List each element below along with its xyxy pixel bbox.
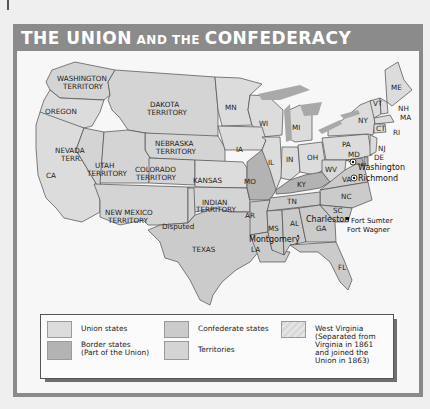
title-and-the: AND THE bbox=[132, 33, 205, 47]
svg-text:TERRITORY: TERRITORY bbox=[195, 205, 237, 214]
svg-text:LA: LA bbox=[251, 245, 260, 254]
legend-item-border: Border states (Part of the Union) bbox=[47, 341, 149, 360]
page-edge-mark bbox=[7, 0, 9, 10]
svg-text:IN: IN bbox=[286, 155, 294, 164]
svg-text:RI: RI bbox=[393, 128, 400, 137]
region-new-york bbox=[328, 100, 375, 136]
label-oregon: OREGON bbox=[45, 107, 77, 116]
legend-item-west-virginia: West Virginia (Separated from Virginia i… bbox=[281, 321, 376, 365]
label-charleston: Charleston bbox=[306, 215, 349, 224]
svg-text:WV: WV bbox=[325, 165, 337, 174]
montgomery-dot-icon bbox=[297, 235, 299, 237]
svg-text:TERRITORY: TERRITORY bbox=[62, 82, 104, 91]
svg-text:IL: IL bbox=[268, 158, 274, 167]
svg-text:TERRITORY: TERRITORY bbox=[155, 147, 197, 156]
legend-item-union: Union states bbox=[47, 321, 127, 338]
svg-text:MD: MD bbox=[348, 150, 360, 159]
legend-item-confederate: Confederate states bbox=[164, 321, 269, 338]
svg-text:SC: SC bbox=[333, 206, 343, 215]
svg-text:TERRITORY: TERRITORY bbox=[86, 169, 128, 178]
svg-text:MA: MA bbox=[400, 113, 411, 122]
west-virginia-swatch bbox=[281, 321, 306, 338]
svg-text:MN: MN bbox=[225, 103, 237, 112]
svg-text:CT: CT bbox=[376, 124, 386, 133]
title-bar: THE UNION AND THE CONFEDERACY bbox=[13, 24, 423, 51]
label-richmond: Richmond bbox=[358, 174, 398, 183]
svg-text:VA: VA bbox=[342, 175, 351, 184]
svg-text:AL: AL bbox=[290, 219, 299, 228]
svg-text:MO: MO bbox=[244, 177, 256, 186]
territories-swatch bbox=[164, 341, 189, 360]
svg-text:TN: TN bbox=[286, 197, 297, 206]
label-texas: TEXAS bbox=[191, 245, 216, 254]
svg-text:WI: WI bbox=[259, 119, 268, 128]
svg-text:TERR.: TERR. bbox=[60, 154, 82, 163]
legend-item-territories: Territories bbox=[164, 341, 235, 360]
svg-text:AR: AR bbox=[245, 211, 255, 220]
svg-text:VT: VT bbox=[373, 99, 383, 108]
svg-text:DE: DE bbox=[374, 153, 385, 162]
svg-text:NJ: NJ bbox=[378, 144, 386, 153]
title-union: THE UNION bbox=[21, 28, 132, 48]
title-confederacy: CONFEDERACY bbox=[205, 28, 352, 48]
svg-text:GA: GA bbox=[316, 224, 327, 233]
svg-text:NY: NY bbox=[358, 116, 368, 125]
map-legend: Union states Border states (Part of the … bbox=[40, 314, 394, 379]
svg-text:KY: KY bbox=[297, 180, 306, 189]
confederate-swatch bbox=[164, 321, 189, 338]
union-swatch bbox=[47, 321, 72, 338]
svg-text:TERRITORY: TERRITORY bbox=[107, 216, 149, 225]
svg-text:PA: PA bbox=[342, 140, 351, 149]
svg-text:NH: NH bbox=[398, 104, 409, 113]
label-disputed: Disputed bbox=[162, 222, 194, 231]
label-washington: Washington bbox=[358, 163, 405, 172]
label-montgomery: Montgomery bbox=[249, 235, 300, 244]
svg-text:MI: MI bbox=[292, 123, 300, 132]
svg-text:FL: FL bbox=[338, 263, 346, 272]
border-swatch bbox=[47, 341, 72, 360]
svg-text:MS: MS bbox=[268, 224, 279, 233]
label-fort-sumter: Fort Sumter bbox=[351, 217, 393, 225]
svg-text:IA: IA bbox=[236, 145, 243, 154]
svg-text:OH: OH bbox=[307, 153, 318, 162]
label-ca: CA bbox=[46, 171, 56, 180]
svg-text:ME: ME bbox=[391, 83, 402, 92]
us-civil-war-map: WASHINGTON TERRITORY OREGON DAKOTA TERRI… bbox=[17, 51, 419, 307]
map-title: THE UNION AND THE CONFEDERACY bbox=[21, 28, 351, 48]
svg-text:TERRITORY: TERRITORY bbox=[146, 108, 188, 117]
svg-text:TERRITORY: TERRITORY bbox=[135, 173, 177, 182]
label-kansas: KANSAS bbox=[193, 176, 222, 185]
label-fort-wagner: Fort Wagner bbox=[347, 226, 390, 234]
svg-text:NC: NC bbox=[341, 192, 351, 201]
fort-marker-icon bbox=[346, 217, 349, 220]
region-new-jersey bbox=[370, 135, 377, 155]
